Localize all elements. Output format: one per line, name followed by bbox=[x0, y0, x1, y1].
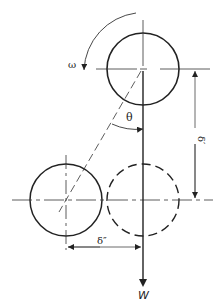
delta-double-prime-label: δ″ bbox=[97, 235, 107, 246]
rotation-arc bbox=[84, 13, 136, 70]
theta-label: θ bbox=[126, 111, 133, 124]
delta-prime-label: δ′ bbox=[196, 136, 207, 145]
shaft-displacement-diagram: θ ω δ′ δ″ W bbox=[0, 0, 220, 303]
weight-label: W bbox=[138, 289, 150, 302]
omega-label: ω bbox=[68, 59, 76, 70]
theta-arc bbox=[112, 124, 143, 129]
radial-dashed-line bbox=[59, 71, 141, 212]
